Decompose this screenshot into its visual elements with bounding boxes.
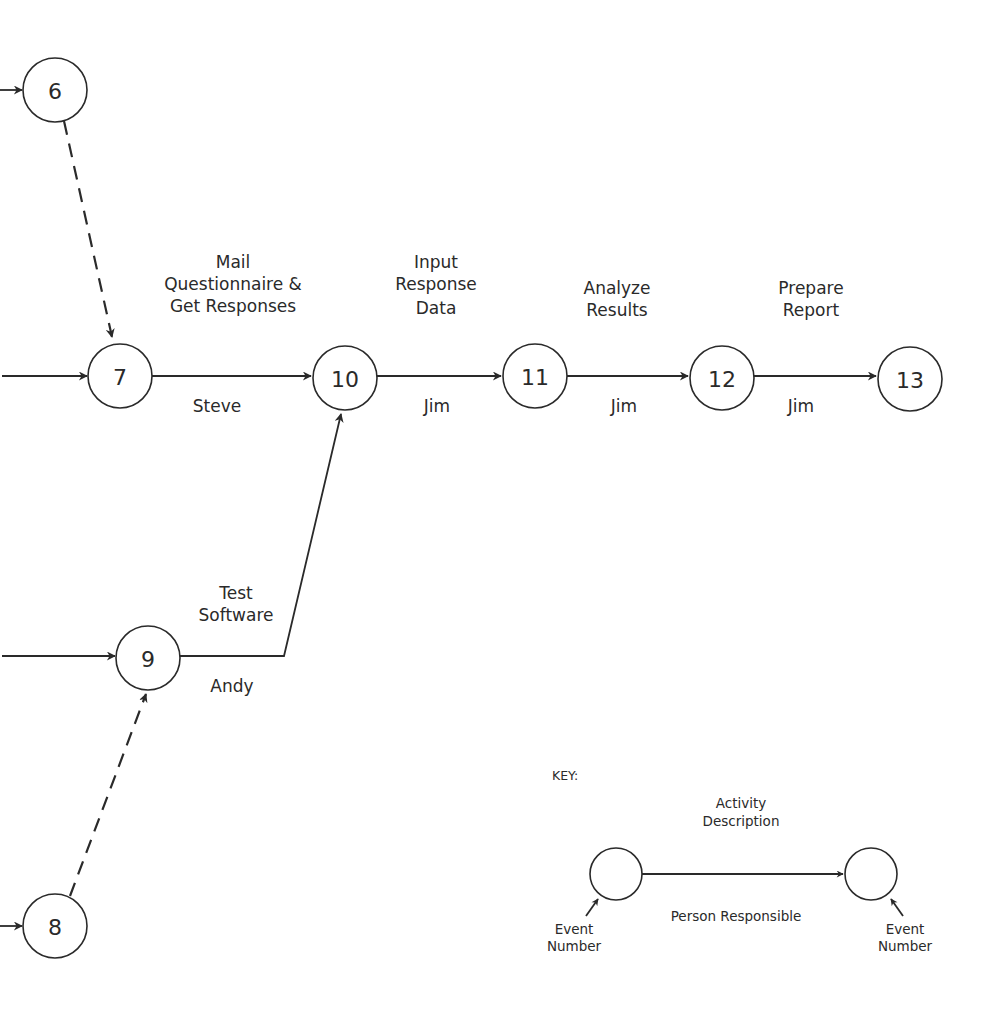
description-line: Results	[586, 300, 648, 320]
dummy-activity-6-to-7	[64, 121, 112, 337]
person-responsible-andy: Andy	[210, 676, 253, 696]
key-person-responsible: Person Responsible	[671, 908, 802, 924]
event-number: 10	[331, 367, 359, 392]
activity-description-mail-questionnaire: Mail Questionnaire & Get Responses	[164, 252, 302, 316]
key-title: KEY:	[552, 768, 578, 783]
person-responsible-jim: Jim	[423, 396, 450, 416]
event-node-13: 13	[878, 347, 942, 411]
event-number: 9	[141, 647, 155, 672]
description-line: Get Responses	[170, 296, 296, 316]
event-node-11: 11	[503, 344, 567, 408]
description-line: Input	[414, 252, 458, 272]
event-node-8: 8	[23, 894, 87, 958]
key-activity-description: Activity	[716, 795, 767, 811]
activity-description-prepare-report: Prepare Report	[778, 278, 843, 320]
network-diagram: 6 7 10 11 12 13 9 8 Mail Questionnaire &…	[0, 0, 994, 1021]
description-line: Report	[783, 300, 840, 320]
key-activity-description: Description	[703, 813, 780, 829]
activity-description-analyze-results: Analyze Results	[584, 278, 651, 320]
event-node-12: 12	[690, 346, 754, 410]
event-number: 8	[48, 915, 62, 940]
event-node-9: 9	[116, 626, 180, 690]
event-number: 6	[48, 79, 62, 104]
activity-description-test-software: Test Software	[199, 583, 274, 625]
event-number: 13	[896, 368, 924, 393]
description-line: Software	[199, 605, 274, 625]
event-number: 12	[708, 367, 736, 392]
event-number: 7	[113, 365, 127, 390]
key-event-number-right: Number	[878, 938, 933, 954]
description-line: Questionnaire &	[164, 274, 302, 294]
description-line: Mail	[216, 252, 251, 272]
key-event-number-left: Event	[555, 921, 594, 937]
event-number: 11	[521, 365, 549, 390]
person-responsible-jim: Jim	[787, 396, 814, 416]
key-event-circle-start	[590, 848, 642, 900]
description-line: Response	[395, 274, 477, 294]
key-event-pointer-left	[586, 899, 598, 916]
description-line: Data	[416, 298, 457, 318]
activity-description-input-response-data: Input Response Data	[395, 252, 477, 318]
key-event-number-right: Event	[886, 921, 925, 937]
key-event-circle-end	[845, 848, 897, 900]
description-line: Test	[218, 583, 253, 603]
key-event-pointer-right	[891, 899, 903, 916]
person-responsible-steve: Steve	[193, 396, 241, 416]
dummy-activity-8-to-9	[70, 694, 146, 896]
event-node-10: 10	[313, 346, 377, 410]
person-responsible-jim: Jim	[610, 396, 637, 416]
description-line: Analyze	[584, 278, 651, 298]
event-node-7: 7	[88, 344, 152, 408]
event-node-6: 6	[23, 58, 87, 122]
key-event-number-left: Number	[547, 938, 602, 954]
legend-key: KEY: Activity Description Person Respons…	[547, 768, 933, 954]
description-line: Prepare	[778, 278, 843, 298]
